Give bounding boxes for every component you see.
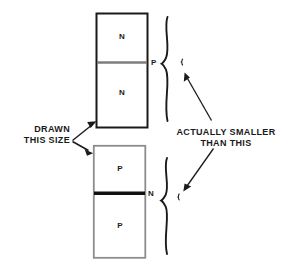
- drawn-this-size-arrow-lower-head: [85, 149, 94, 156]
- actually-smaller-arrow-lower-shaft: [187, 149, 214, 187]
- upper-scale-mark: [181, 59, 182, 65]
- actually-smaller-line1: ACTUALLY SMALLER: [160, 127, 292, 137]
- drawn-this-size-arrow-lower-shaft: [73, 142, 89, 151]
- drawn-this-size-arrows: [73, 121, 97, 155]
- actually-smaller-arrow-upper-shaft: [188, 79, 212, 121]
- upper-device-bottom-region-label: N: [96, 88, 148, 97]
- drawn-this-size-line2: THIS SIZE: [0, 135, 70, 145]
- actually-smaller-line2: THAN THIS: [160, 138, 292, 148]
- lower-brace: [161, 158, 167, 254]
- upper-device-top-region-label: N: [96, 32, 148, 41]
- lower-device-outline: [94, 146, 146, 258]
- upper-device-outline: [97, 14, 148, 128]
- drawn-this-size-arrow-upper-shaft: [73, 125, 93, 141]
- upper-device-group: [97, 14, 148, 128]
- lower-scale-mark: [178, 194, 179, 200]
- lower-device-bottom-region-label: P: [94, 221, 146, 230]
- diagram-canvas: N N P P P N DRAWN THIS SIZE ACTUALLY SMA…: [0, 0, 295, 271]
- lower-device-top-region-label: P: [94, 164, 146, 173]
- lower-device-junction-label: N: [148, 189, 154, 198]
- drawn-this-size-line1: DRAWN: [0, 124, 70, 134]
- lower-device-group: [94, 146, 146, 258]
- upper-brace: [162, 17, 168, 121]
- upper-device-junction-label: P: [151, 58, 157, 67]
